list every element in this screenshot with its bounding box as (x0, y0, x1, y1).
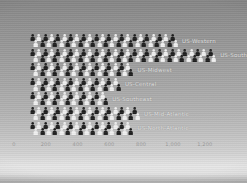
person-icon (52, 69, 57, 76)
person-icon (84, 128, 89, 135)
person-icon (205, 55, 210, 62)
person-icon (97, 98, 102, 105)
person-icon (65, 69, 70, 76)
person-icon (59, 113, 64, 120)
person-icon (116, 113, 121, 120)
person-icon (90, 84, 95, 91)
person-icon (33, 69, 38, 76)
person-icon (128, 40, 133, 47)
person-icon (148, 40, 153, 47)
person-icon (103, 84, 108, 91)
person-icon (59, 55, 64, 62)
row-label: US-Midwest (138, 67, 172, 73)
person-icon (33, 113, 38, 120)
person-icon (135, 55, 140, 62)
person-icon (52, 113, 57, 120)
person-icon (198, 55, 203, 62)
person-icon (40, 128, 45, 135)
person-icon (59, 98, 64, 105)
person-icon (71, 98, 76, 105)
person-icon (211, 55, 216, 62)
person-icon (46, 69, 51, 76)
person-icon (71, 113, 76, 120)
x-axis: 02004006008001,0001,200 (0, 141, 247, 149)
x-axis-tick-label: 0 (12, 141, 15, 147)
person-icon (65, 128, 70, 135)
person-icon (103, 98, 108, 105)
person-icon (179, 55, 184, 62)
person-icon (167, 40, 172, 47)
person-icon (160, 55, 165, 62)
person-icon (116, 40, 121, 47)
x-axis-tick-label: 1,200 (197, 141, 212, 147)
row-label: US-Southeast (112, 96, 152, 102)
person-icon (46, 40, 51, 47)
person-icon (40, 113, 45, 120)
person-icon (78, 113, 83, 120)
person-icon (109, 84, 114, 91)
person-icon (84, 40, 89, 47)
person-icon (90, 69, 95, 76)
row-label: US-Western (182, 38, 216, 44)
person-icon (78, 84, 83, 91)
person-icon (109, 69, 114, 76)
x-axis-tick-label: 1,000 (165, 141, 180, 147)
person-icon (154, 40, 159, 47)
person-icon (71, 128, 76, 135)
person-icon (52, 40, 57, 47)
person-icon (59, 128, 64, 135)
row-label: US-North-Atlantic (138, 125, 189, 131)
row-label: US-Mid-Atlantic (144, 111, 189, 117)
person-icon (128, 69, 133, 76)
row-label: US-Southwest (220, 52, 247, 58)
person-icon (78, 128, 83, 135)
person-icon (116, 69, 121, 76)
person-icon (90, 98, 95, 105)
person-icon (71, 55, 76, 62)
person-icon (141, 40, 146, 47)
person-icon (78, 55, 83, 62)
person-icon (65, 40, 70, 47)
pictograph-chart: US-WesternUS-SouthwestUS-MidwestUS-Centr… (0, 0, 247, 140)
person-icon (109, 113, 114, 120)
person-icon (90, 55, 95, 62)
person-icon (97, 128, 102, 135)
person-icon (84, 98, 89, 105)
person-icon (78, 40, 83, 47)
person-icon (109, 55, 114, 62)
person-icon (46, 128, 51, 135)
person-icon (65, 98, 70, 105)
person-icon (33, 128, 38, 135)
person-icon (52, 55, 57, 62)
person-icon (40, 55, 45, 62)
person-icon (46, 55, 51, 62)
person-icon (40, 40, 45, 47)
person-icon (84, 69, 89, 76)
person-icon (46, 98, 51, 105)
person-icon (135, 113, 140, 120)
person-icon (173, 40, 178, 47)
person-icon (97, 84, 102, 91)
person-icon (109, 40, 114, 47)
person-icon (141, 55, 146, 62)
person-icon (33, 98, 38, 105)
person-icon (78, 98, 83, 105)
person-icon (33, 55, 38, 62)
person-icon (40, 98, 45, 105)
person-icon (59, 40, 64, 47)
person-icon (186, 55, 191, 62)
slide-background: US-WesternUS-SouthwestUS-MidwestUS-Centr… (0, 0, 247, 183)
person-icon (109, 128, 114, 135)
person-icon (33, 84, 38, 91)
person-icon (154, 55, 159, 62)
person-icon (33, 40, 38, 47)
person-icon (59, 69, 64, 76)
person-icon (116, 55, 121, 62)
person-icon (65, 55, 70, 62)
person-icon (135, 40, 140, 47)
person-icon (90, 128, 95, 135)
person-icon (65, 113, 70, 120)
person-icon (97, 40, 102, 47)
person-icon (52, 128, 57, 135)
person-icon (65, 84, 70, 91)
